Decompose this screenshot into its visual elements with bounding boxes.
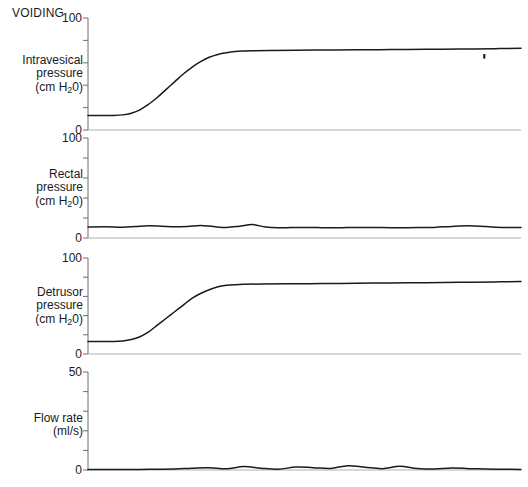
panel-label-detrusor-pressure: Detrusorpressure(cm H20): [0, 286, 83, 328]
trace-flow-rate: [88, 466, 521, 470]
ytick-label-detrusor-pressure-100: 100: [46, 252, 82, 264]
ytick-label-intravesical-pressure-100: 100: [46, 12, 82, 24]
panel-label-line: (ml/s): [0, 425, 83, 439]
panel-label-line: Detrusor: [0, 286, 83, 300]
trace-intravesical-pressure: [88, 48, 521, 115]
panel-label-intravesical-pressure: Intravesicalpressure(cm H20): [0, 54, 83, 96]
panel-label-line: (cm H20): [0, 313, 83, 328]
panel-label-line: Flow rate: [0, 412, 83, 426]
ytick-label-rectal-pressure-0: 0: [46, 232, 82, 244]
panel-label-line: pressure: [0, 67, 83, 81]
ytick-label-flow-rate-0: 0: [46, 464, 82, 476]
ytick-label-detrusor-pressure-0: 0: [46, 348, 82, 360]
panel-label-line: Intravesical: [0, 54, 83, 68]
panel-label-line: pressure: [0, 299, 83, 313]
ytick-label-flow-rate-50: 50: [46, 366, 82, 378]
panel-label-flow-rate: Flow rate(ml/s): [0, 412, 83, 439]
ytick-label-rectal-pressure-100: 100: [46, 132, 82, 144]
panel-label-line: pressure: [0, 181, 83, 195]
panel-label-line: (cm H20): [0, 195, 83, 210]
trace-rectal-pressure: [88, 225, 521, 228]
panel-label-line: Rectal: [0, 168, 83, 182]
panel-label-rectal-pressure: Rectalpressure(cm H20): [0, 168, 83, 210]
panel-label-line: (cm H20): [0, 81, 83, 96]
urodynamics-figure: VOIDING Intravesicalpressure(cm H20)0100…: [0, 0, 528, 487]
trace-detrusor-pressure: [88, 282, 521, 342]
artifact-mark: [483, 54, 485, 59]
